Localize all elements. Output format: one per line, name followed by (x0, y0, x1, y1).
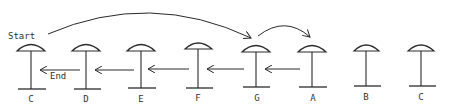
cap-icon (127, 45, 155, 52)
start-label: Start (8, 31, 35, 41)
end-label: End (50, 71, 66, 81)
pillar-label: B (363, 92, 368, 102)
cap-icon (72, 45, 100, 52)
cap-icon (354, 45, 379, 51)
pillar-label: C (418, 92, 423, 102)
pillar-label: D (83, 94, 88, 104)
pillar-sequence-diagram: C D E F G A B C (0, 0, 450, 108)
pillar-e: E (127, 45, 156, 105)
pillar-a: A (298, 46, 327, 104)
pillar-label: G (254, 93, 259, 103)
pillar-b: B (354, 45, 381, 102)
pillar-c-right: C (408, 45, 436, 102)
pillar-f: F (185, 43, 213, 103)
cap-icon (17, 45, 45, 52)
pillar-label: A (310, 93, 316, 103)
pillar-d: D (72, 45, 101, 105)
cap-icon (185, 43, 212, 49)
pillar-label: F (195, 93, 200, 103)
arrow-g-to-a (258, 26, 310, 37)
arrow-start-to-g (48, 13, 251, 38)
pillar-label: C (28, 94, 33, 104)
cap-icon (408, 45, 434, 51)
pillar-c-left: C (17, 45, 46, 105)
pillar-label: E (138, 94, 143, 104)
cap-icon (298, 46, 326, 53)
cap-icon (242, 46, 270, 53)
pillar-g: G (242, 46, 270, 104)
